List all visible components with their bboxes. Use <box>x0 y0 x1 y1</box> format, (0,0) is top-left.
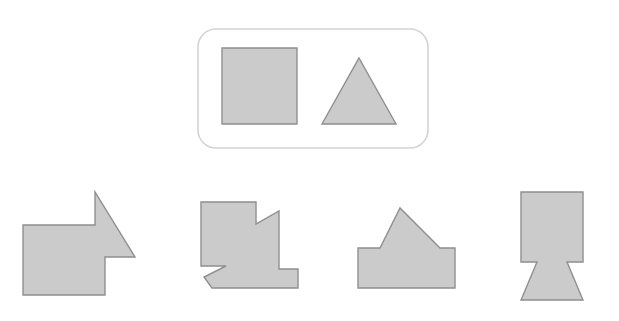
shape-puzzle-canvas <box>0 0 619 321</box>
option-b[interactable] <box>201 202 298 288</box>
puzzle-svg <box>0 0 619 321</box>
option-c[interactable] <box>358 208 455 288</box>
option-d[interactable] <box>521 192 583 300</box>
prompt-square <box>222 48 297 124</box>
option-a[interactable] <box>23 192 135 295</box>
